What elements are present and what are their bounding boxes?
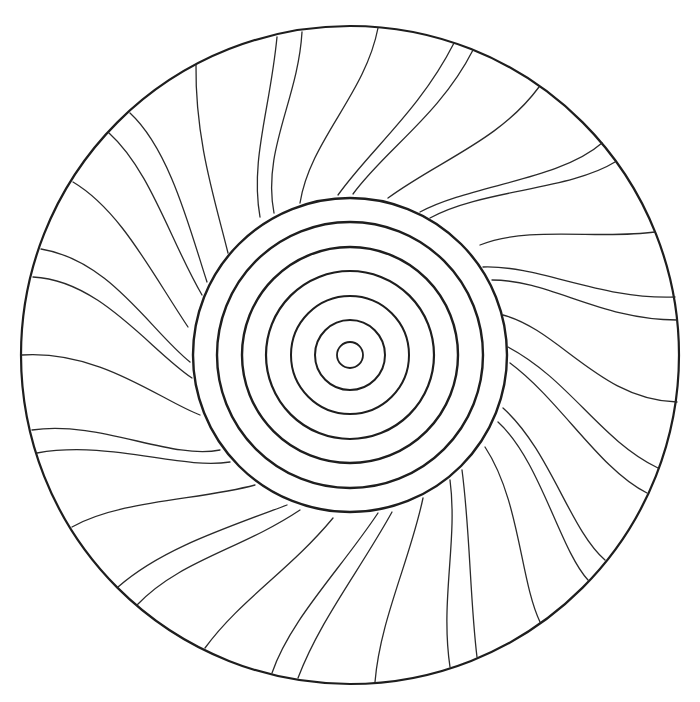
background (0, 0, 700, 702)
mandala-artwork (0, 0, 700, 702)
